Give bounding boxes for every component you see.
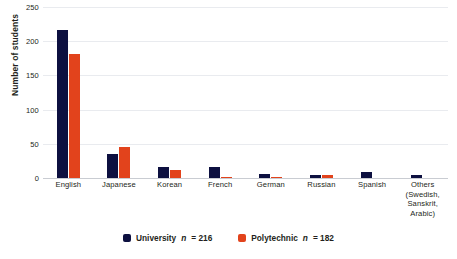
- bar-group: [411, 7, 434, 178]
- x-axis-label-4: German: [246, 180, 297, 190]
- x-axis-label-line: Spanish: [347, 180, 398, 190]
- bar-polytechnic-2[interactable]: [170, 170, 181, 178]
- legend-label: University: [136, 233, 176, 243]
- chart-legend: University n = 216Polytechnic n = 182: [0, 233, 457, 243]
- bar-group: [310, 7, 333, 178]
- bar-university-2[interactable]: [158, 167, 169, 178]
- bar-university-0[interactable]: [57, 30, 68, 178]
- x-axis-label-0: English: [43, 180, 94, 190]
- bar-polytechnic-1[interactable]: [119, 147, 130, 178]
- y-axis-tick-labels: 050100150200250: [0, 7, 39, 178]
- bar-university-3[interactable]: [209, 167, 220, 178]
- x-axis-label-2: Korean: [144, 180, 195, 190]
- bar-polytechnic-3[interactable]: [221, 177, 232, 178]
- bar-group: [57, 7, 80, 178]
- bar-polytechnic-5[interactable]: [322, 175, 333, 178]
- bar-polytechnic-4[interactable]: [271, 177, 282, 178]
- legend-item-polytechnic[interactable]: Polytechnic n = 182: [238, 233, 334, 243]
- bar-group: [361, 7, 384, 178]
- legend-n-value: = 182: [313, 233, 334, 243]
- legend-n-symbol: n: [303, 233, 308, 243]
- x-axis-label-7: Others(Swedish,Sanskrit,Arabic): [397, 180, 448, 218]
- legend-n-value: = 216: [191, 233, 212, 243]
- x-axis-label-1: Japanese: [94, 180, 145, 190]
- x-axis-label-line: Sanskrit,: [397, 199, 448, 209]
- bar-group: [209, 7, 232, 178]
- bar-group: [107, 7, 130, 178]
- plot-area: [43, 7, 448, 178]
- x-axis-category-labels: EnglishJapaneseKoreanFrenchGermanRussian…: [43, 180, 448, 236]
- bar-university-1[interactable]: [107, 154, 118, 178]
- legend-label: Polytechnic: [251, 233, 298, 243]
- bar-chart: Number of students 050100150200250 Engli…: [0, 0, 457, 259]
- legend-n-symbol: n: [181, 233, 186, 243]
- y-tick-label-150: 150: [5, 71, 39, 80]
- x-axis-label-5: Russian: [296, 180, 347, 190]
- x-axis-label-line: Russian: [296, 180, 347, 190]
- y-tick-label-100: 100: [5, 106, 39, 115]
- y-tick-label-200: 200: [5, 37, 39, 46]
- x-axis-label-6: Spanish: [347, 180, 398, 190]
- x-axis-label-line: English: [43, 180, 94, 190]
- x-axis-label-line: Japanese: [94, 180, 145, 190]
- bar-group: [158, 7, 181, 178]
- bars-layer: [43, 7, 448, 178]
- legend-item-university[interactable]: University n = 216: [123, 233, 212, 243]
- x-axis-label-3: French: [195, 180, 246, 190]
- bar-university-4[interactable]: [259, 174, 270, 178]
- y-tick-label-0: 0: [5, 174, 39, 183]
- bar-group: [259, 7, 282, 178]
- x-axis-label-line: German: [246, 180, 297, 190]
- x-axis-label-line: Korean: [144, 180, 195, 190]
- legend-swatch-university: [123, 234, 131, 242]
- bar-university-7[interactable]: [411, 175, 422, 178]
- bar-polytechnic-0[interactable]: [69, 54, 80, 178]
- y-tick-label-250: 250: [5, 3, 39, 12]
- legend-swatch-polytechnic: [238, 234, 246, 242]
- x-axis-label-line: (Swedish,: [397, 190, 448, 200]
- x-axis-label-line: French: [195, 180, 246, 190]
- gridline-0: [43, 178, 448, 179]
- bar-university-6[interactable]: [361, 172, 372, 178]
- y-tick-label-50: 50: [5, 140, 39, 149]
- x-axis-label-line: Others: [397, 180, 448, 190]
- x-axis-label-line: Arabic): [397, 209, 448, 219]
- bar-university-5[interactable]: [310, 175, 321, 178]
